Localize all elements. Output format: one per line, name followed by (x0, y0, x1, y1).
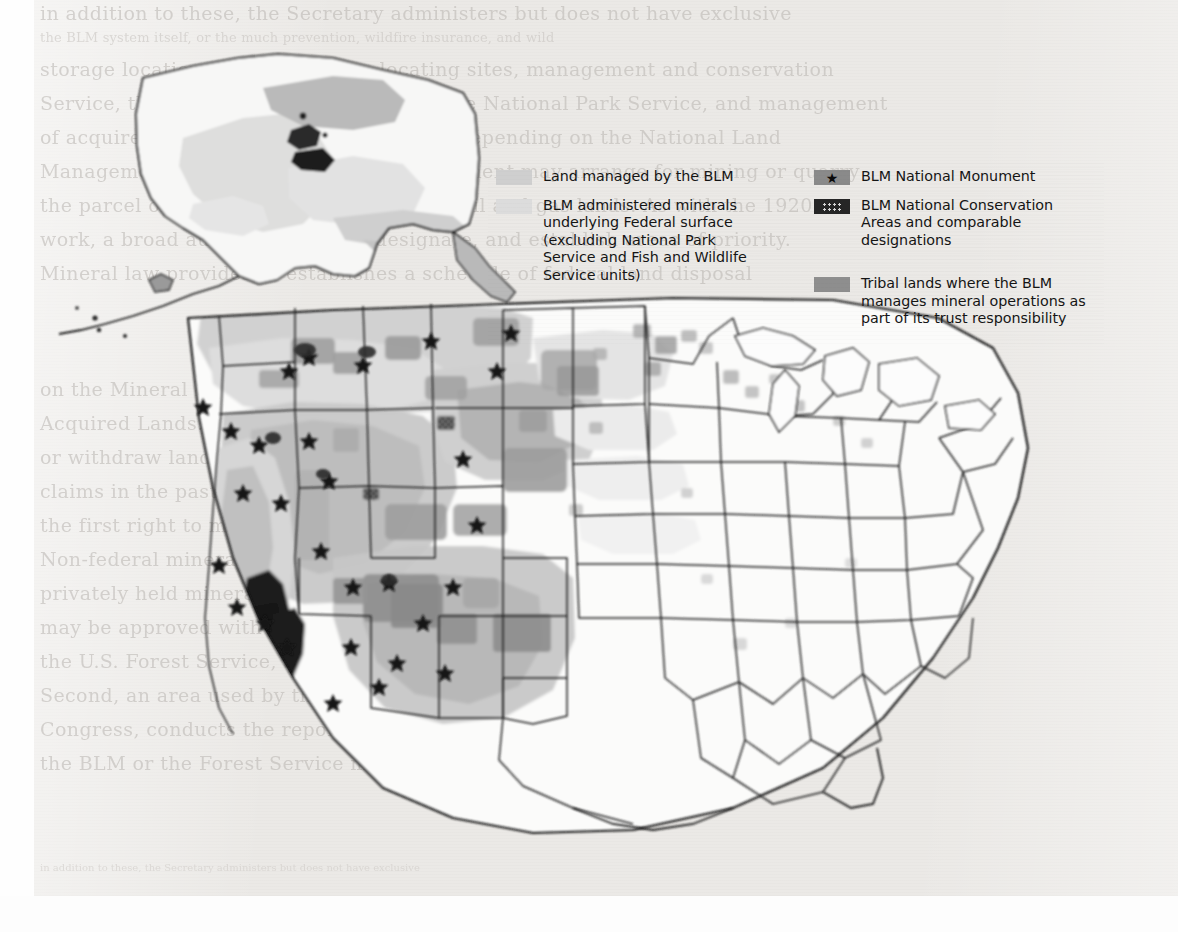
page-bottom-margin (0, 896, 1178, 932)
legend-label: Tribal lands where the BLM manages miner… (861, 275, 1094, 328)
pale-gray-swatch-icon (496, 199, 532, 214)
dark-dotted-swatch-icon (814, 199, 850, 214)
legend-column-right: BLM National Monument BLM National Conse… (814, 168, 1094, 339)
legend-label: BLM National Conservation Areas and comp… (861, 197, 1094, 250)
contiguous-us-region (173, 288, 1053, 848)
legend-item-national-monument: BLM National Monument (814, 168, 1094, 186)
alaska-region (59, 54, 515, 338)
medium-gray-swatch-icon (814, 277, 850, 292)
legend-column-left: Land managed by the BLM BLM administered… (496, 168, 768, 295)
monument-star-swatch-icon (814, 170, 850, 185)
legend-label: Land managed by the BLM (543, 168, 733, 186)
light-gray-swatch-icon (496, 170, 532, 185)
legend-label: BLM National Monument (861, 168, 1035, 186)
legend-item-blm-land: Land managed by the BLM (496, 168, 768, 186)
page-left-margin (0, 0, 34, 932)
legend-label: BLM administered minerals underlying Fed… (543, 197, 768, 285)
map-legend: Land managed by the BLM BLM administered… (496, 168, 1096, 336)
legend-item-tribal-lands: Tribal lands where the BLM manages miner… (814, 275, 1094, 328)
us-blm-lands-map (33, 18, 1133, 888)
legend-item-blm-minerals: BLM administered minerals underlying Fed… (496, 197, 768, 285)
legend-item-conservation-areas: BLM National Conservation Areas and comp… (814, 197, 1094, 250)
map-svg (33, 18, 1133, 888)
